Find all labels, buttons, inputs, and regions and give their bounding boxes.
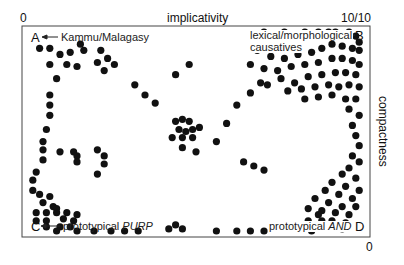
data-point bbox=[342, 95, 349, 102]
data-point bbox=[349, 195, 356, 202]
x-axis-min-label: 0 bbox=[20, 12, 27, 24]
data-point bbox=[356, 47, 363, 54]
corner-d-annotation-text: prototypical bbox=[269, 220, 328, 232]
data-point bbox=[247, 89, 254, 96]
data-point bbox=[104, 55, 111, 62]
data-point bbox=[240, 158, 247, 165]
data-point bbox=[131, 81, 138, 88]
data-point bbox=[345, 106, 352, 113]
plot-frame bbox=[22, 26, 370, 237]
data-point bbox=[46, 193, 53, 200]
data-point bbox=[332, 69, 339, 76]
data-point bbox=[39, 138, 46, 145]
data-point bbox=[39, 156, 46, 163]
corner-c-annotation-emphasis: PURP bbox=[122, 220, 153, 232]
data-point bbox=[39, 146, 46, 153]
data-point bbox=[277, 75, 284, 82]
data-point bbox=[179, 134, 186, 141]
data-point bbox=[46, 61, 53, 68]
data-point bbox=[33, 209, 40, 216]
corner-c-label: C bbox=[31, 220, 40, 233]
data-point bbox=[46, 91, 53, 98]
data-point bbox=[352, 175, 359, 182]
data-point bbox=[43, 209, 50, 216]
data-point bbox=[63, 209, 70, 216]
data-point bbox=[94, 59, 101, 66]
data-point bbox=[182, 128, 189, 135]
data-point bbox=[318, 71, 325, 78]
data-point bbox=[233, 102, 240, 109]
data-point bbox=[172, 71, 179, 78]
corner-d-annotation: prototypical AND bbox=[268, 221, 353, 232]
data-point bbox=[260, 65, 267, 72]
data-point bbox=[94, 146, 101, 153]
data-point bbox=[152, 100, 159, 107]
data-point bbox=[339, 203, 346, 210]
data-point bbox=[80, 47, 87, 54]
data-point bbox=[356, 142, 363, 149]
data-point bbox=[349, 152, 356, 159]
data-point bbox=[301, 95, 308, 102]
data-point bbox=[165, 225, 172, 232]
data-point bbox=[335, 83, 342, 90]
data-point bbox=[356, 158, 363, 165]
data-point bbox=[56, 51, 63, 58]
data-point bbox=[267, 53, 274, 60]
data-point bbox=[101, 67, 108, 74]
data-point bbox=[328, 55, 335, 62]
data-point bbox=[169, 134, 176, 141]
data-point bbox=[325, 199, 332, 206]
data-point bbox=[36, 191, 43, 198]
data-point bbox=[301, 61, 308, 68]
arrow-a bbox=[42, 35, 58, 39]
data-point bbox=[192, 148, 199, 155]
data-point bbox=[260, 167, 267, 174]
data-point bbox=[53, 227, 60, 234]
data-point bbox=[288, 63, 295, 70]
data-point bbox=[29, 177, 36, 184]
data-point bbox=[339, 43, 346, 50]
data-point bbox=[311, 195, 318, 202]
data-point bbox=[46, 102, 53, 109]
data-point bbox=[284, 87, 291, 94]
data-point bbox=[213, 227, 220, 234]
data-point bbox=[233, 227, 240, 234]
data-point bbox=[186, 61, 193, 68]
data-point bbox=[356, 61, 363, 68]
data-point bbox=[175, 126, 182, 133]
data-point bbox=[63, 61, 70, 68]
data-point bbox=[179, 225, 186, 232]
data-point bbox=[73, 158, 80, 165]
data-point bbox=[53, 209, 60, 216]
data-point bbox=[179, 144, 186, 151]
data-point bbox=[339, 55, 346, 62]
corner-c-annotation-text: prototypical bbox=[63, 220, 122, 232]
data-point bbox=[73, 63, 80, 70]
data-point bbox=[94, 171, 101, 178]
data-point bbox=[36, 45, 43, 52]
data-point bbox=[172, 221, 179, 228]
data-point bbox=[257, 79, 264, 86]
corner-c-annotation: prototypical PURP bbox=[63, 221, 153, 232]
data-point bbox=[43, 126, 50, 133]
data-point bbox=[356, 112, 363, 119]
data-point bbox=[352, 203, 359, 210]
x-axis-title: implicativity bbox=[167, 12, 228, 24]
data-point bbox=[352, 71, 359, 78]
data-point bbox=[328, 179, 335, 186]
corner-d-annotation-emphasis: AND bbox=[328, 220, 351, 232]
data-point bbox=[349, 57, 356, 64]
data-point bbox=[39, 199, 46, 206]
data-point bbox=[345, 211, 352, 218]
data-point bbox=[67, 49, 74, 56]
data-point bbox=[291, 79, 298, 86]
corner-b-label: B bbox=[355, 29, 364, 42]
data-point bbox=[73, 211, 80, 218]
data-point bbox=[186, 118, 193, 125]
data-point bbox=[345, 81, 352, 88]
data-point bbox=[342, 69, 349, 76]
data-point bbox=[33, 169, 40, 176]
data-point bbox=[315, 211, 322, 218]
data-point bbox=[56, 148, 63, 155]
data-point bbox=[141, 91, 148, 98]
